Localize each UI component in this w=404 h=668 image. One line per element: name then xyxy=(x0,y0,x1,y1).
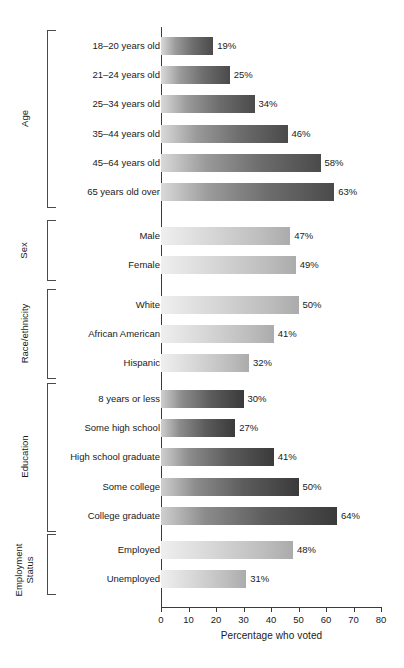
x-axis-title: Percentage who voted xyxy=(161,630,382,641)
category-label: 8 years or less xyxy=(0,390,160,408)
bar xyxy=(161,154,321,172)
bar xyxy=(161,125,288,143)
x-tick-70 xyxy=(354,607,355,612)
category-label: 45–64 years old xyxy=(0,154,160,172)
category-label: 21–24 years old xyxy=(0,66,160,84)
group-label: Age xyxy=(19,30,30,208)
x-tick-label-20: 20 xyxy=(204,614,228,625)
bar-value-label: 47% xyxy=(294,227,313,245)
bar xyxy=(161,296,299,314)
x-tick-60 xyxy=(326,607,327,612)
category-label: 35–44 years old xyxy=(0,125,160,143)
category-label: Male xyxy=(0,227,160,245)
bar xyxy=(161,419,235,437)
category-label: Some college xyxy=(0,478,160,496)
x-tick-label-10: 10 xyxy=(177,614,201,625)
bar-value-label: 27% xyxy=(239,419,258,437)
bar-value-label: 34% xyxy=(259,95,278,113)
bar-value-label: 50% xyxy=(303,296,322,314)
bar xyxy=(161,37,213,55)
bar-value-label: 41% xyxy=(278,448,297,466)
x-tick-30 xyxy=(244,607,245,612)
x-tick-label-40: 40 xyxy=(259,614,283,625)
bar-value-label: 50% xyxy=(303,478,322,496)
x-tick-label-0: 0 xyxy=(149,614,173,625)
category-label: White xyxy=(0,296,160,314)
bar xyxy=(161,448,274,466)
bar xyxy=(161,227,290,245)
bar-value-label: 58% xyxy=(325,154,344,172)
category-label: 65 years old over xyxy=(0,183,160,201)
bar-value-label: 19% xyxy=(217,37,236,55)
bar-value-label: 41% xyxy=(278,325,297,343)
x-tick-10 xyxy=(189,607,190,612)
group-bracket xyxy=(47,30,56,208)
x-tick-50 xyxy=(299,607,300,612)
bar xyxy=(161,478,299,496)
x-tick-20 xyxy=(216,607,217,612)
bar-value-label: 63% xyxy=(338,183,357,201)
x-tick-label-70: 70 xyxy=(342,614,366,625)
category-label: Hispanic xyxy=(0,354,160,372)
x-tick-label-60: 60 xyxy=(314,614,338,625)
bar xyxy=(161,390,244,408)
bar xyxy=(161,95,255,113)
bar-value-label: 32% xyxy=(253,354,272,372)
bar xyxy=(161,541,293,559)
bar xyxy=(161,66,230,84)
bar-value-label: 64% xyxy=(341,507,360,525)
category-label: Female xyxy=(0,256,160,274)
category-label: African American xyxy=(0,325,160,343)
x-tick-80 xyxy=(381,607,382,612)
x-tick-0 xyxy=(161,607,162,612)
x-tick-label-30: 30 xyxy=(232,614,256,625)
bar xyxy=(161,354,249,372)
bar xyxy=(161,570,246,588)
category-label: High school graduate xyxy=(0,448,160,466)
category-label: Employed xyxy=(0,541,160,559)
bar-value-label: 31% xyxy=(250,570,269,588)
bar xyxy=(161,256,296,274)
category-label: 18–20 years old xyxy=(0,37,160,55)
bar xyxy=(161,507,337,525)
bar-value-label: 46% xyxy=(292,125,311,143)
category-label: 25–34 years old xyxy=(0,95,160,113)
bar-value-label: 49% xyxy=(300,256,319,274)
bar-value-label: 25% xyxy=(234,66,253,84)
bar xyxy=(161,325,274,343)
bar-value-label: 48% xyxy=(297,541,316,559)
bar-chart: 01020304050607080 AgeSexRace/ethnicityEd… xyxy=(0,0,404,668)
bar-value-label: 30% xyxy=(248,390,267,408)
category-label: Some high school xyxy=(0,419,160,437)
x-tick-label-50: 50 xyxy=(287,614,311,625)
x-tick-40 xyxy=(271,607,272,612)
category-label: Unemployed xyxy=(0,570,160,588)
x-tick-label-80: 80 xyxy=(369,614,393,625)
bar xyxy=(161,183,334,201)
category-label: College graduate xyxy=(0,507,160,525)
